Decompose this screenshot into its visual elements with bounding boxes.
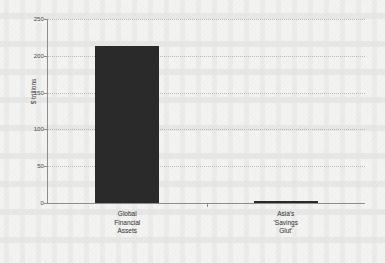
y-tick-label: 50 (37, 163, 44, 169)
bar[interactable] (254, 201, 318, 203)
plot-area (48, 19, 365, 203)
y-tick-label: 250 (34, 16, 44, 22)
chart-figure: $ trillions 050100150200250 Global Finan… (0, 0, 385, 263)
gridline (48, 19, 365, 20)
x-category-label: Global Financial Assets (82, 210, 172, 236)
y-axis-ticks: 050100150200250 (0, 0, 44, 263)
y-tick-label: 200 (34, 53, 44, 59)
y-tick-label: 100 (34, 126, 44, 132)
y-tick-label: 150 (34, 90, 44, 96)
x-tick-mark (207, 203, 208, 207)
bar[interactable] (95, 46, 159, 203)
x-category-label: Asia's 'Savings Glut' (241, 210, 331, 236)
